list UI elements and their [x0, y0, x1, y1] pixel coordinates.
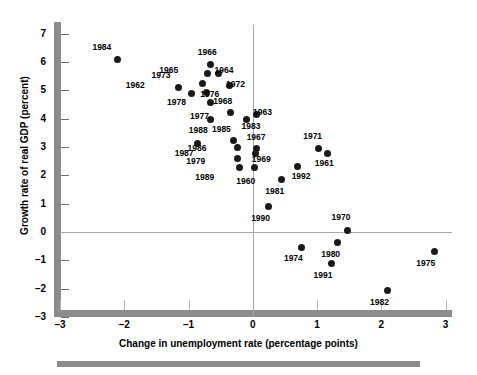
y-axis-tick-label: –2: [24, 284, 46, 294]
data-point: [188, 90, 195, 97]
data-point: [234, 144, 241, 151]
data-point: [265, 203, 272, 210]
data-point-label: 1974: [284, 254, 303, 263]
data-point-label: 1984: [92, 43, 111, 52]
data-point: [114, 56, 121, 63]
data-point-label: 1989: [195, 173, 214, 182]
data-point-label: 1967: [247, 133, 266, 142]
x-axis-tick-label: 2: [366, 320, 396, 330]
data-point-label: 1985: [212, 125, 231, 134]
x-axis-tick-label: –3: [45, 320, 75, 330]
data-point: [227, 109, 234, 116]
data-point-label: 1966: [198, 48, 217, 57]
data-point-label: 1988: [189, 126, 208, 135]
data-point-label: 1969: [252, 155, 271, 164]
data-point-label: 1963: [253, 108, 272, 117]
scatter-plot-figure: –3–2–101234567–3–2–10123 198419661965196…: [0, 0, 477, 375]
data-point-label: 1970: [331, 213, 350, 222]
data-point-label: 1972: [226, 80, 245, 89]
data-point-label: 1960: [236, 177, 255, 186]
data-point: [298, 244, 305, 251]
x-axis-tick-label: 1: [302, 320, 332, 330]
data-point-label: 1964: [215, 66, 234, 75]
data-point-label: 1973: [152, 71, 171, 80]
data-point-label: 1962: [126, 81, 145, 90]
data-point-label: 1968: [213, 97, 232, 106]
y-axis-tick: [61, 317, 69, 318]
data-point: [324, 150, 331, 157]
data-point-label: 1986: [188, 144, 207, 153]
data-point-label: 1979: [186, 157, 205, 166]
data-point-label: 1971: [303, 132, 322, 141]
data-point-label: 1982: [370, 298, 389, 307]
data-point: [207, 116, 214, 123]
data-point-label: 1981: [265, 187, 284, 196]
data-point: [334, 239, 341, 246]
data-point: [234, 155, 241, 162]
y-axis-title: Growth rate of real GDP (percent): [19, 46, 30, 266]
data-point: [236, 164, 243, 171]
data-point: [278, 176, 285, 183]
data-point-label: 1978: [167, 98, 186, 107]
data-point-label: 1961: [315, 159, 334, 168]
data-point: [328, 260, 335, 267]
plot-area: 1984196619651964197319621972197619781977…: [60, 25, 452, 317]
data-point: [384, 287, 391, 294]
data-point-label: 1992: [292, 172, 311, 181]
data-point-label: 1980: [321, 250, 340, 259]
x-axis-tick-label: 3: [431, 320, 461, 330]
x-axis-tick-label: –1: [174, 320, 204, 330]
data-point: [204, 70, 211, 77]
footer-decorative-bar: [57, 361, 420, 367]
data-point-label: 1975: [416, 259, 435, 268]
data-point: [175, 84, 182, 91]
data-point-label: 1983: [242, 122, 261, 131]
data-point-label: 1990: [251, 214, 270, 223]
data-point: [431, 248, 438, 255]
data-point: [251, 164, 258, 171]
x-axis-tick-label: 0: [238, 320, 268, 330]
data-point: [199, 80, 206, 87]
data-point: [207, 61, 214, 68]
data-point: [315, 145, 322, 152]
x-axis-title: Change in unemployment rate (percentage …: [0, 338, 477, 349]
y-axis-tick-label: –3: [24, 312, 46, 322]
horizontal-zero-reference-line: [60, 232, 452, 233]
y-axis-tick-label: 7: [24, 29, 46, 39]
x-axis-tick-label: –2: [109, 320, 139, 330]
data-point: [294, 163, 301, 170]
data-point-label: 1991: [313, 271, 332, 280]
